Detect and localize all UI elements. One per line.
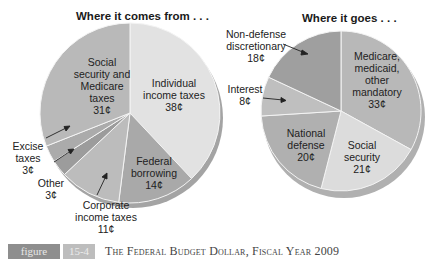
- label-corporate-income-taxes: Corporate income taxes 11¢: [66, 199, 146, 235]
- figure-number: 15-4: [63, 244, 95, 259]
- left-chart-title: Where it comes from . . .: [76, 10, 209, 22]
- figure-caption-text: The Federal Budget Dollar, Fiscal Year 2…: [105, 244, 339, 259]
- label-national-defense: National defense 20¢: [280, 127, 332, 163]
- label-medicare-medicaid-mandatory: Medicare, medicaid, other mandatory 33¢: [342, 50, 412, 110]
- label-excise-taxes: Excise taxes 3¢: [6, 140, 50, 176]
- label-interest: Interest 8¢: [222, 83, 268, 107]
- label-social-security: Social security 21¢: [336, 139, 388, 175]
- label-social-security-medicare-taxes: Social security and Medicare taxes 31¢: [66, 56, 138, 116]
- label-individual-income-taxes: Individual income taxes 38¢: [134, 77, 214, 113]
- label-federal-borrowing: Federal borrowing 14¢: [124, 155, 184, 191]
- label-non-defense-discretionary: Non-defense discretionary 18¢: [218, 28, 294, 64]
- label-other: Other 3¢: [34, 177, 68, 201]
- right-chart-title: Where it goes . . .: [302, 12, 397, 24]
- figure-tag: figure: [8, 244, 60, 259]
- figure-caption: figure 15-4 The Federal Budget Dollar, F…: [8, 244, 339, 259]
